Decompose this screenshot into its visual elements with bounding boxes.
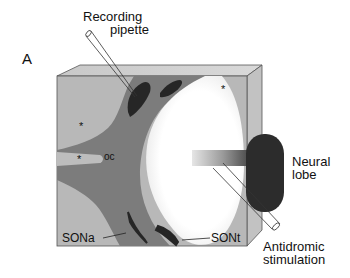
oc-label: oc [104,152,115,162]
star-marker-left-upper: * [79,121,83,132]
sont-label: SONt [211,232,240,244]
pituitary-stalk [192,150,254,166]
recording-label-line2: pipette [110,23,149,36]
antidromic-label-line2: stimulation [263,253,325,266]
block-top-face [57,65,262,76]
star-marker-right: * [221,84,225,95]
star-marker-left-lower: * [77,154,81,165]
neural-lobe-label-line2: lobe [292,168,317,181]
brain-slice-schematic [0,0,350,278]
panel-letter: A [22,51,32,66]
neural-lobe [246,134,284,212]
diagram-figure: A Recording pipette Neural lobe Antidrom… [0,0,350,278]
sona-label: SONa [62,232,95,244]
